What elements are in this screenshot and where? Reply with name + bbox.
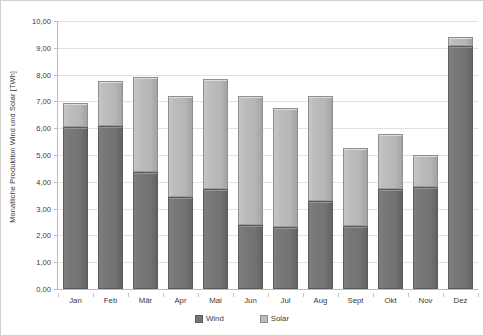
bar-group[interactable] [273, 21, 298, 289]
y-tick-label: 4,00 [36, 177, 51, 186]
bar-segment-wind[interactable] [168, 197, 193, 289]
square-swatch-icon [260, 315, 268, 323]
bar-segment-solar[interactable] [63, 103, 88, 127]
bar-group[interactable] [203, 21, 228, 289]
y-tick-label: 10,00 [32, 17, 51, 26]
bar-segment-solar[interactable] [168, 96, 193, 197]
x-axis-label-jan: Jan [63, 296, 88, 305]
x-tick-mark [93, 293, 94, 297]
bar-segment-solar[interactable] [203, 79, 228, 189]
bar-segment-wind[interactable] [98, 126, 123, 289]
y-tick-label: 7,00 [36, 97, 51, 106]
bar-segment-wind[interactable] [413, 187, 438, 289]
bar-segment-solar[interactable] [273, 108, 298, 227]
bar-segment-solar[interactable] [448, 37, 473, 46]
bar-series-container [58, 21, 478, 289]
y-tick-label: 6,00 [36, 124, 51, 133]
x-tick-mark [58, 293, 59, 297]
bar-segment-wind[interactable] [203, 189, 228, 290]
bar-group[interactable] [168, 21, 193, 289]
legend-label: Solar [271, 314, 289, 323]
bar-segment-solar[interactable] [98, 81, 123, 125]
x-tick-mark [443, 293, 444, 297]
bar-segment-wind[interactable] [273, 227, 298, 289]
y-axis-title-text: Monatliche Produktion Wind und Solar [TW… [8, 71, 17, 223]
y-tick-label: 1,00 [36, 258, 51, 267]
x-tick-mark [233, 293, 234, 297]
x-axis-label-okt: Okt [378, 296, 403, 305]
square-swatch-icon [195, 315, 203, 323]
y-tick-label: 9,00 [36, 43, 51, 52]
bar-segment-wind[interactable] [343, 226, 368, 289]
bar-segment-solar[interactable] [378, 134, 403, 189]
legend-label: Wind [206, 314, 224, 323]
y-axis-title: Monatliche Produktion Wind und Solar [TW… [3, 1, 21, 293]
x-axis-label-apr: Apr [168, 296, 193, 305]
bar-group[interactable] [98, 21, 123, 289]
bar-group[interactable] [378, 21, 403, 289]
x-axis-label-aug: Aug [308, 296, 333, 305]
x-tick-mark [338, 293, 339, 297]
x-tick-mark [408, 293, 409, 297]
bar-segment-solar[interactable] [308, 96, 333, 201]
bar-segment-wind[interactable] [63, 127, 88, 289]
bar-group[interactable] [238, 21, 263, 289]
bar-segment-wind[interactable] [448, 46, 473, 289]
bar-segment-solar[interactable] [133, 77, 158, 172]
plot-area: 10,009,008,007,006,005,004,003,002,001,0… [58, 21, 478, 289]
x-axis-labels: JanFebMärAprMaiJunJulAugSeptOktNovDez [58, 293, 478, 307]
x-tick-mark [128, 293, 129, 297]
bar-group[interactable] [133, 21, 158, 289]
x-tick-mark [478, 293, 479, 297]
bar-segment-wind[interactable] [378, 189, 403, 290]
x-axis-line [57, 289, 478, 290]
bar-segment-solar[interactable] [413, 155, 438, 187]
legend-item-wind[interactable]: Wind [195, 314, 224, 323]
bar-segment-solar[interactable] [343, 148, 368, 226]
y-tick-label: 2,00 [36, 231, 51, 240]
x-axis-label-sept: Sept [343, 296, 368, 305]
bar-segment-wind[interactable] [308, 201, 333, 289]
x-axis-label-nov: Nov [413, 296, 438, 305]
bar-group[interactable] [63, 21, 88, 289]
bar-group[interactable] [413, 21, 438, 289]
x-axis-label-jul: Jul [273, 296, 298, 305]
bar-segment-wind[interactable] [133, 172, 158, 289]
bar-group[interactable] [308, 21, 333, 289]
bar-group[interactable] [343, 21, 368, 289]
x-tick-mark [163, 293, 164, 297]
bar-group[interactable] [448, 21, 473, 289]
x-tick-mark [198, 293, 199, 297]
x-tick-mark [303, 293, 304, 297]
y-tick-mark [54, 289, 58, 290]
x-axis-label-mär: Mär [133, 296, 158, 305]
y-tick-label: 5,00 [36, 151, 51, 160]
chart-legend: WindSolar [1, 314, 483, 323]
chart-container: Monatliche Produktion Wind und Solar [TW… [0, 0, 484, 336]
y-tick-label: 8,00 [36, 70, 51, 79]
x-tick-mark [373, 293, 374, 297]
bar-segment-solar[interactable] [238, 96, 263, 225]
y-tick-label: 3,00 [36, 204, 51, 213]
x-axis-label-feb: Feb [98, 296, 123, 305]
bar-segment-wind[interactable] [238, 225, 263, 289]
y-tick-label: 0,00 [36, 285, 51, 294]
x-axis-label-jun: Jun [238, 296, 263, 305]
x-axis-label-dez: Dez [448, 296, 473, 305]
x-axis-label-mai: Mai [203, 296, 228, 305]
legend-item-solar[interactable]: Solar [260, 314, 289, 323]
x-tick-mark [268, 293, 269, 297]
